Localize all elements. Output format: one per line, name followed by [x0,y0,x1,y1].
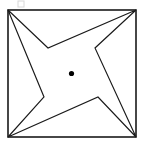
star-in-square-diagram [0,0,144,146]
scan-artifact-mark [18,1,24,7]
center-point-dot [69,71,74,76]
figure-container: Four-pointed star inscribed in a square … [0,0,144,146]
